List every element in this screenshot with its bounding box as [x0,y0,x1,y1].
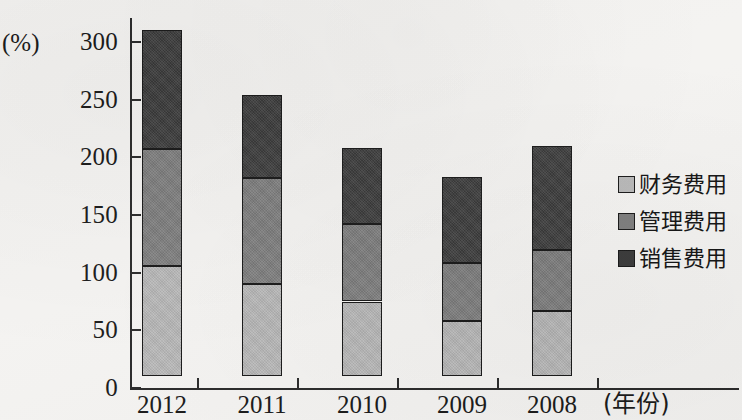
bar-segment [242,95,282,178]
bar-group-2008 [532,0,572,420]
medium-gray-swatch-icon [618,213,635,230]
x-axis-tick-mark [197,378,199,388]
bar-group-2009 [442,0,482,420]
stacked-bar-chart: (%) (年份) 300250200150100500 201220112010… [0,0,742,420]
bar-segment [142,30,182,149]
legend-item-label: 管理费用 [639,211,727,233]
bar-group-2010 [342,0,382,420]
bar-segment [242,284,282,376]
y-axis-tick-mark [132,214,141,216]
x-axis-tick-mark [497,378,499,388]
legend-item-label: 财务费用 [639,174,727,196]
bar-segment [442,263,482,321]
bar-segment [442,177,482,264]
y-axis-tick-mark [132,387,141,389]
dark-gray-swatch-icon [618,250,635,267]
y-axis-tick-label: 0 [18,375,118,400]
y-axis-tick-mark [132,99,141,101]
y-axis-tick-mark [132,272,141,274]
bar-segment [242,178,282,284]
bar-segment [342,224,382,301]
bar-segment [342,302,382,377]
x-axis-unit-label: (年份) [603,392,670,416]
legend-item-label: 销售费用 [639,248,727,270]
bar-segment [532,250,572,311]
bar-segment [142,266,182,377]
legend-item: 销售费用 [618,240,727,277]
y-axis-tick-label: 50 [18,317,118,342]
y-axis-tick-label: 150 [18,202,118,227]
y-axis-tick-label: 300 [18,29,118,54]
y-axis-tick-label: 200 [18,144,118,169]
x-axis-tick-mark [597,378,599,388]
x-axis-tick-mark [397,378,399,388]
bar-group-2012 [142,0,182,420]
legend-item: 管理费用 [618,203,727,240]
light-gray-swatch-icon [618,176,635,193]
bar-segment [342,148,382,224]
bar-segment [532,146,572,250]
y-axis-tick-label: 250 [18,87,118,112]
y-axis-tick-mark [132,329,141,331]
chart-legend: 财务费用管理费用销售费用 [618,166,727,277]
y-axis-tick-mark [132,156,141,158]
y-axis-tick-mark [132,41,141,43]
y-axis-line [130,18,132,390]
bar-group-2011 [242,0,282,420]
x-axis-tick-mark [297,378,299,388]
bar-segment [142,149,182,265]
legend-item: 财务费用 [618,166,727,203]
bar-segment [442,321,482,376]
y-axis-tick-label: 100 [18,260,118,285]
bar-segment [532,311,572,377]
